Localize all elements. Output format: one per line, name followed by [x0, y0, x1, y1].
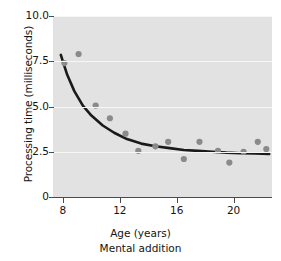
x-tick-label: 8: [48, 204, 78, 216]
chart-caption: Mental addition: [0, 242, 281, 254]
y-tick-mark: [49, 152, 54, 153]
y-tick-mark: [49, 107, 54, 108]
x-tick-mark: [120, 198, 121, 203]
x-tick-mark: [63, 198, 64, 203]
y-tick-mark: [49, 61, 54, 62]
y-tick-mark: [49, 16, 54, 17]
y-tick-mark: [49, 197, 54, 198]
x-tick-mark: [234, 198, 235, 203]
x-tick-label: 12: [105, 204, 135, 216]
x-axis-label: Age (years): [0, 227, 281, 239]
x-tick-label: 16: [162, 204, 192, 216]
chart-figure: Processing time (milliseconds) 02.55.07.…: [0, 0, 281, 261]
x-axis-ticks: 8121620: [0, 0, 281, 261]
x-tick-mark: [177, 198, 178, 203]
x-tick-label: 20: [219, 204, 249, 216]
